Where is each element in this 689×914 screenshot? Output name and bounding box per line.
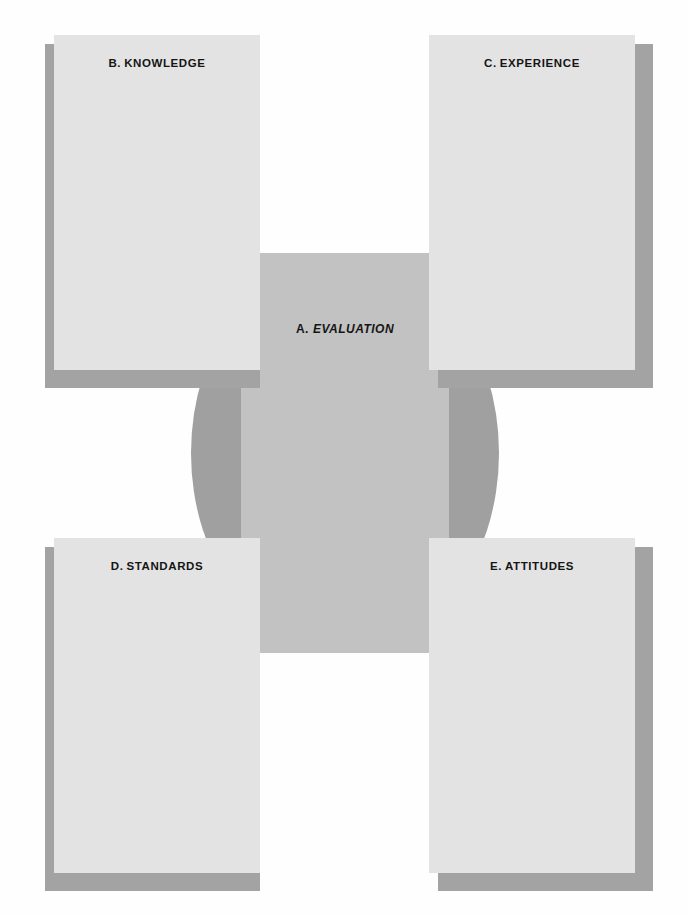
center-vertical-band: [241, 253, 449, 653]
node-box-knowledge[interactable]: B.KNOWLEDGE: [45, 35, 260, 379]
node-label-standards: D.STANDARDS: [54, 560, 260, 572]
center-text: EVALUATION: [313, 322, 394, 336]
box-face: B.KNOWLEDGE: [54, 35, 260, 370]
node-prefix: D.: [111, 560, 124, 572]
node-label-experience: C.EXPERIENCE: [429, 57, 635, 69]
box-face: E.ATTITUDES: [429, 538, 635, 873]
node-label-attitudes: E.ATTITUDES: [429, 560, 635, 572]
node-box-attitudes[interactable]: E.ATTITUDES: [429, 538, 644, 882]
node-box-standards[interactable]: D.STANDARDS: [45, 538, 260, 882]
node-label-knowledge: B.KNOWLEDGE: [54, 57, 260, 69]
node-text: EXPERIENCE: [500, 57, 580, 69]
node-text: KNOWLEDGE: [124, 57, 205, 69]
center-prefix: A.: [296, 322, 309, 336]
box-face: D.STANDARDS: [54, 538, 260, 873]
node-box-experience[interactable]: C.EXPERIENCE: [429, 35, 644, 379]
center-label-evaluation: A.EVALUATION: [241, 322, 449, 336]
node-prefix: E.: [490, 560, 502, 572]
node-text: STANDARDS: [126, 560, 203, 572]
node-text: ATTITUDES: [505, 560, 574, 572]
node-prefix: C.: [484, 57, 497, 69]
box-face: C.EXPERIENCE: [429, 35, 635, 370]
diagram-canvas: B.KNOWLEDGE C.EXPERIENCE D.STANDARDS E.A…: [0, 0, 689, 914]
node-prefix: B.: [108, 57, 121, 69]
